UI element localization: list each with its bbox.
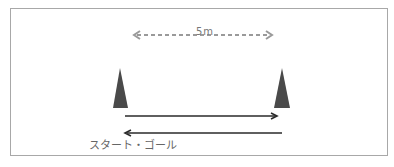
arrow-right bbox=[125, 113, 277, 119]
start-goal-label: スタート・ゴール bbox=[89, 136, 177, 152]
distance-label: 5m bbox=[196, 26, 214, 37]
cone-right-icon bbox=[274, 68, 290, 108]
cone-left-icon bbox=[113, 68, 128, 108]
